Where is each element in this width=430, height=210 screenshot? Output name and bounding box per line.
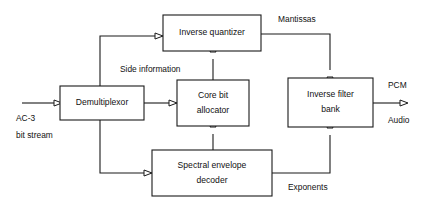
arrow-pcm-audio-output <box>400 100 408 106</box>
blocks-layer: Inverse quantizerDemultiplexorCore bital… <box>60 15 373 196</box>
connection-quantizer-mantissas-to-filter-bank <box>261 34 330 70</box>
edge-label-side-information: Side information <box>120 64 181 74</box>
edge-label-exponents: Exponents <box>288 182 328 192</box>
diagram-canvas: Inverse quantizerDemultiplexorCore bital… <box>0 0 430 210</box>
edge-label-input-label-line1: AC-3 <box>16 113 35 123</box>
arrow-into-core-bit-allocator-left <box>169 100 177 106</box>
edge-label-output-label-line1: PCM <box>388 80 407 90</box>
block-inverse-quantizer[interactable]: Inverse quantizer <box>163 15 261 51</box>
connection-spectral-decoder-exponents-to-filter-bank <box>272 135 330 173</box>
connection-demux-to-spectral-decoder <box>100 120 144 173</box>
block-label-spectral-envelope-decoder: Spectral envelope <box>178 160 247 170</box>
block-spectral-envelope-decoder[interactable]: Spectral envelopedecoder <box>152 150 272 196</box>
block-label-spectral-envelope-decoder: decoder <box>196 175 227 185</box>
block-outline-spectral-envelope-decoder <box>152 150 272 196</box>
connection-demux-to-inverse-quantizer <box>100 36 155 86</box>
block-core-bit-allocator[interactable]: Core bitallocator <box>177 80 249 126</box>
block-inverse-filter-bank[interactable]: Inverse filterbank <box>288 78 373 127</box>
edge-label-input-label-line2: bit stream <box>16 130 53 140</box>
block-label-inverse-filter-bank: Inverse filter <box>307 89 354 99</box>
block-label-core-bit-allocator: Core bit <box>198 90 229 100</box>
block-label-inverse-filter-bank: bank <box>321 104 340 114</box>
arrow-into-inverse-quantizer-left <box>155 33 163 39</box>
block-label-core-bit-allocator: allocator <box>197 105 230 115</box>
block-label-demultiplexor: Demultiplexor <box>76 97 129 107</box>
edge-label-output-label-line2: Audio <box>388 115 410 125</box>
ac3-decoder-block-diagram: Inverse quantizerDemultiplexorCore bital… <box>0 0 430 210</box>
block-label-inverse-quantizer: Inverse quantizer <box>179 27 245 37</box>
edge-label-mantissas: Mantissas <box>278 14 316 24</box>
block-outline-inverse-filter-bank <box>288 78 373 127</box>
block-demultiplexor[interactable]: Demultiplexor <box>60 86 144 120</box>
arrow-into-spectral-decoder-left <box>144 170 152 176</box>
block-outline-core-bit-allocator <box>177 80 249 126</box>
